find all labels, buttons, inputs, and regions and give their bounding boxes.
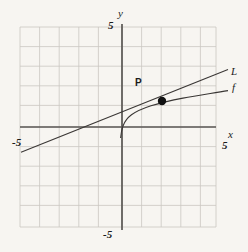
point-label-P: P	[135, 78, 142, 88]
point-P-marker	[158, 97, 166, 105]
tangent-line-label-L: L	[231, 66, 237, 77]
x-axis-label: x	[228, 129, 233, 140]
x-axis-left-tick-label: -5	[12, 137, 21, 148]
function-curve-label-f: f	[232, 82, 235, 93]
y-axis-top-tick-label: 5	[108, 20, 114, 31]
figure-background	[0, 0, 248, 252]
y-axis-bottom-tick-label: -5	[103, 229, 112, 240]
y-axis-label: y	[118, 8, 123, 19]
x-axis-right-tick-label: 5	[222, 140, 228, 151]
graph-figure	[0, 0, 248, 252]
